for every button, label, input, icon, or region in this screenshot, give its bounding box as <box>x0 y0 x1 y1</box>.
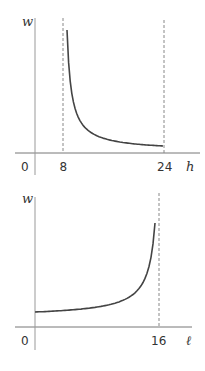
bottom-y-label: w <box>22 191 33 206</box>
top-x-label: h <box>186 159 194 174</box>
top-tick-label-8: 8 <box>60 160 68 174</box>
bottom-origin-label: 0 <box>21 334 29 348</box>
bottom-curve <box>35 223 155 312</box>
top-curve <box>67 30 163 146</box>
chart-bottom: w 0 ℓ 16 <box>15 191 192 350</box>
top-y-label: w <box>22 14 33 29</box>
bottom-tick-label-16: 16 <box>151 334 166 348</box>
chart-top: w 0 h 824 <box>15 14 200 175</box>
bottom-x-label: ℓ <box>186 333 192 348</box>
charts: w 0 h 824 w 0 ℓ 16 <box>0 0 205 371</box>
top-tick-label-24: 24 <box>157 160 172 174</box>
top-origin-label: 0 <box>21 160 29 174</box>
